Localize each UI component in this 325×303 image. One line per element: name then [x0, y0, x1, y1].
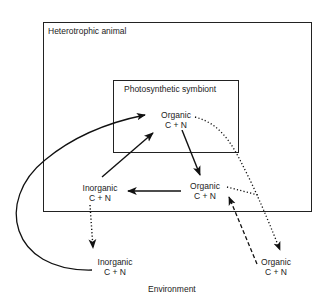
node-line2: C + N [83, 193, 118, 203]
node-symbiont-organic: Organic C + N [160, 110, 192, 130]
node-line2: C + N [98, 267, 133, 277]
node-env-organic: Organic C + N [260, 257, 292, 277]
node-line2: C + N [190, 191, 220, 201]
node-line1: Organic [161, 110, 191, 120]
arrow-symbiont-organic-to-animal-organic [182, 130, 200, 175]
arrow-inorganic-to-symbiont-organic [102, 133, 153, 177]
node-line1: Organic [190, 181, 220, 191]
node-line1: Inorganic [98, 257, 133, 267]
node-line2: C + N [261, 267, 291, 277]
environment-label: Environment [148, 284, 196, 294]
node-line2: C + N [161, 120, 191, 130]
arrow-env-organic-to-animal-organic [229, 197, 257, 264]
heterotrophic-animal-label: Heterotrophic animal [48, 26, 126, 36]
photosynthetic-symbiont-label: Photosynthetic symbiont [124, 84, 216, 94]
node-env-inorganic: Inorganic C + N [97, 257, 134, 277]
node-animal-organic: Organic C + N [189, 181, 221, 201]
arrow-animal-inorganic-to-env-inorganic [90, 205, 93, 248]
node-line1: Inorganic [83, 183, 118, 193]
node-animal-inorganic: Inorganic C + N [82, 183, 119, 203]
node-line1: Organic [261, 257, 291, 267]
